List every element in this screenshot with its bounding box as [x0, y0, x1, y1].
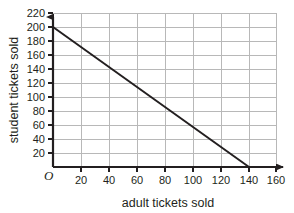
y-tick-label-140: 140 — [27, 63, 45, 75]
y-tick-label-80: 80 — [33, 105, 45, 117]
x-tick-label-120: 120 — [212, 174, 230, 186]
y-tick-label-100: 100 — [27, 91, 45, 103]
x-axis-title: adult tickets sold — [122, 196, 214, 210]
y-tick-label-180: 180 — [27, 35, 45, 47]
x-tick-label-100: 100 — [184, 174, 202, 186]
x-tick-label-80: 80 — [159, 174, 171, 186]
y-axis-tick-labels: 220 200 180 160 140 120 100 80 60 40 20 — [27, 7, 45, 159]
x-tick-label-160: 160 — [267, 174, 285, 186]
y-tick-label-220: 220 — [27, 7, 45, 19]
y-axis-title: student tickets sold — [7, 37, 21, 143]
x-tick-label-60: 60 — [131, 174, 143, 186]
x-tick-label-40: 40 — [103, 174, 115, 186]
y-tick-label-40: 40 — [33, 133, 45, 145]
y-tick-label-200: 200 — [27, 21, 45, 33]
origin-label: O — [44, 168, 54, 183]
y-tick-label-120: 120 — [27, 77, 45, 89]
y-tick-label-20: 20 — [33, 147, 45, 159]
y-tick-label-160: 160 — [27, 49, 45, 61]
y-tick-label-60: 60 — [33, 119, 45, 131]
x-axis-tick-labels: 20 40 60 80 100 120 140 160 — [75, 174, 285, 186]
x-tick-label-20: 20 — [75, 174, 87, 186]
chart-container: 220 200 180 160 140 120 100 80 60 40 20 … — [0, 0, 294, 213]
ticket-sales-line-chart: 220 200 180 160 140 120 100 80 60 40 20 … — [0, 0, 294, 213]
x-tick-label-140: 140 — [240, 174, 258, 186]
